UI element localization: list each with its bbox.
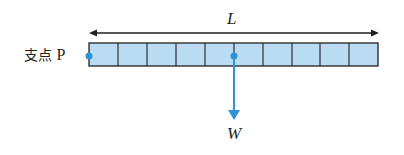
length-label: L — [227, 9, 236, 29]
weight-label: W — [227, 124, 241, 144]
pivot-label-text: 支点 — [24, 47, 52, 63]
length-dimension-arrow — [89, 30, 379, 37]
pivot-point-dot — [86, 53, 93, 60]
beam-diagram — [0, 0, 404, 155]
pivot-point-letter: P — [56, 46, 65, 63]
pivot-label: 支点 P — [24, 44, 65, 64]
